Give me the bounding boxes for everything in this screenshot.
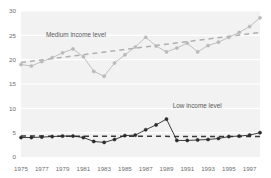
data-point-marker <box>82 136 85 139</box>
data-point-marker <box>71 134 74 137</box>
x-tick-label: 1995 <box>222 165 236 172</box>
data-point-marker <box>40 135 43 138</box>
data-point-marker <box>258 16 261 19</box>
data-point-marker <box>165 117 168 120</box>
data-point-marker <box>92 70 95 73</box>
data-point-marker <box>258 131 261 134</box>
x-axis-tick-labels: 1975197719791981198319851987198919911993… <box>14 165 257 172</box>
x-tick-label: 1997 <box>243 165 257 172</box>
data-point-marker <box>19 63 22 66</box>
data-point-marker <box>92 140 95 143</box>
data-point-marker <box>51 135 54 138</box>
data-point-marker <box>248 25 251 28</box>
data-point-marker <box>134 134 137 137</box>
line-chart: 051015202530 197519771979198119831985198… <box>0 0 271 178</box>
data-point-marker <box>196 50 199 53</box>
data-point-marker <box>30 136 33 139</box>
data-point-marker <box>196 138 199 141</box>
y-tick-label: 15 <box>9 80 16 87</box>
data-point-marker <box>103 75 106 78</box>
data-point-marker <box>154 44 157 47</box>
series-label-medium-income-level: Medium income level <box>46 31 106 38</box>
data-point-marker <box>123 53 126 56</box>
data-point-marker <box>103 141 106 144</box>
data-point-marker <box>186 139 189 142</box>
data-point-marker <box>113 61 116 64</box>
x-tick-label: 1985 <box>118 165 132 172</box>
series-label-low-income-level: Low income level <box>173 102 222 109</box>
data-point-marker <box>165 50 168 53</box>
data-point-marker <box>206 138 209 141</box>
data-point-marker <box>248 134 251 137</box>
x-tick-label: 1975 <box>14 165 28 172</box>
y-tick-label: 0 <box>13 153 17 160</box>
data-point-marker <box>217 137 220 140</box>
chart-screenshot: 051015202530 197519771979198119831985198… <box>0 0 271 178</box>
y-tick-label: 25 <box>9 32 16 39</box>
data-point-marker <box>30 64 33 67</box>
y-tick-label: 20 <box>9 56 16 63</box>
data-point-marker <box>186 42 189 45</box>
data-point-marker <box>154 123 157 126</box>
data-point-marker <box>61 134 64 137</box>
data-point-marker <box>123 134 126 137</box>
data-point-marker <box>51 56 54 59</box>
x-tick-label: 1981 <box>76 165 90 172</box>
x-tick-label: 1989 <box>160 165 174 172</box>
x-tick-label: 1993 <box>201 165 215 172</box>
y-tick-label: 30 <box>9 7 16 14</box>
data-point-marker <box>227 135 230 138</box>
y-tick-label: 10 <box>9 105 16 112</box>
data-point-marker <box>144 128 147 131</box>
x-tick-label: 1987 <box>139 165 153 172</box>
data-point-marker <box>227 36 230 39</box>
data-point-marker <box>71 47 74 50</box>
data-point-marker <box>19 136 22 139</box>
data-point-marker <box>40 60 43 63</box>
x-tick-label: 1979 <box>56 165 70 172</box>
x-tick-label: 1977 <box>35 165 49 172</box>
data-point-marker <box>175 46 178 49</box>
data-point-marker <box>113 138 116 141</box>
y-axis-tick-labels: 051015202530 <box>9 7 16 160</box>
x-tick-label: 1983 <box>97 165 111 172</box>
data-point-marker <box>175 139 178 142</box>
y-tick-label: 5 <box>13 129 17 136</box>
data-point-marker <box>206 44 209 47</box>
chart-svg: 051015202530 197519771979198119831985198… <box>0 0 271 178</box>
data-point-marker <box>134 45 137 48</box>
data-point-marker <box>217 41 220 44</box>
data-point-marker <box>238 31 241 34</box>
x-tick-label: 1991 <box>180 165 194 172</box>
data-point-marker <box>144 36 147 39</box>
data-point-marker <box>61 51 64 54</box>
data-point-marker <box>82 55 85 58</box>
data-point-marker <box>238 134 241 137</box>
